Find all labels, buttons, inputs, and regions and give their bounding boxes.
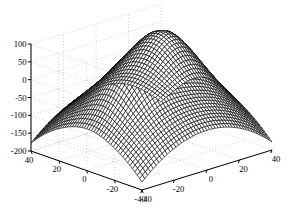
tick-label: -150 bbox=[11, 128, 27, 138]
tick-label: 20 bbox=[239, 164, 248, 174]
tick-label: -40 bbox=[140, 194, 151, 204]
tick-label: 40 bbox=[272, 154, 281, 164]
tick-label: -20 bbox=[173, 184, 184, 194]
tick-label: -20 bbox=[107, 184, 118, 194]
tick-label: -100 bbox=[11, 110, 27, 120]
tick-label: 0 bbox=[22, 75, 26, 85]
mesh-surface bbox=[31, 30, 272, 182]
tick-label: -50 bbox=[15, 93, 26, 103]
tick-label: 50 bbox=[18, 57, 27, 67]
tick-label: 20 bbox=[52, 164, 61, 174]
tick-label: 0 bbox=[209, 174, 213, 184]
tick-label: 100 bbox=[14, 39, 27, 49]
tick-label: 0 bbox=[82, 174, 86, 184]
tick-label: 40 bbox=[25, 155, 34, 165]
surface-plot-3d: 100500-50-100-150-20040200-20-40-40-2002… bbox=[0, 0, 289, 221]
matlab-figure-window: 100500-50-100-150-20040200-20-40-40-2002… bbox=[0, 0, 289, 221]
